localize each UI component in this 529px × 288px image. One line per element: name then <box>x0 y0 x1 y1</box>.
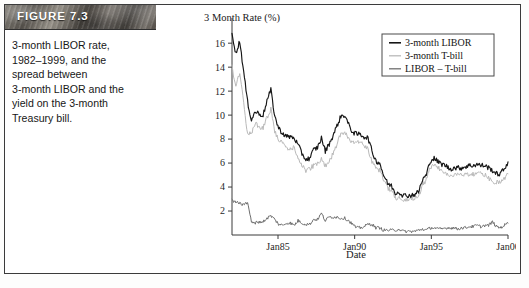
legend-label: 3-month LIBOR <box>405 37 472 48</box>
line-chart-plot: 246810121416Jan85Jan90Jan95Jan003-month … <box>196 6 516 251</box>
y-axis-tick-label: 14 <box>215 62 225 73</box>
y-axis-tick-label: 2 <box>220 205 225 216</box>
y-axis-tick-label: 4 <box>220 181 225 192</box>
figure-banner: FIGURE 7.3 <box>5 5 156 30</box>
caption-line-3: spread between <box>12 67 192 82</box>
y-axis-tick-label: 8 <box>220 133 225 144</box>
series-line-tbill <box>232 65 508 201</box>
figure-caption: 3-month LIBOR rate, 1982–1999, and the s… <box>12 38 192 126</box>
figure-number-label: FIGURE 7.3 <box>17 10 89 22</box>
legend-label: LIBOR – T-bill <box>405 63 467 74</box>
chart-container: 3 Month Rate (%) 246810121416Jan85Jan90J… <box>196 6 516 268</box>
y-axis-tick-label: 12 <box>215 86 225 97</box>
series-line-spread <box>232 199 508 233</box>
caption-line-1: 3-month LIBOR rate, <box>12 38 192 53</box>
figure-root: FIGURE 7.3 3-month LIBOR rate, 1982–1999… <box>0 0 529 288</box>
y-axis-tick-label: 16 <box>215 38 225 49</box>
legend-label: 3-month T-bill <box>405 50 463 61</box>
caption-line-5: yield on the 3-month <box>12 96 192 111</box>
caption-line-4: 3-month LIBOR and the <box>12 82 192 97</box>
x-axis-title: Date <box>196 249 516 260</box>
y-axis-tick-label: 6 <box>220 157 225 168</box>
caption-line-6: Treasury bill. <box>12 111 192 126</box>
y-axis-tick-label: 10 <box>215 110 225 121</box>
caption-line-2: 1982–1999, and the <box>12 53 192 68</box>
